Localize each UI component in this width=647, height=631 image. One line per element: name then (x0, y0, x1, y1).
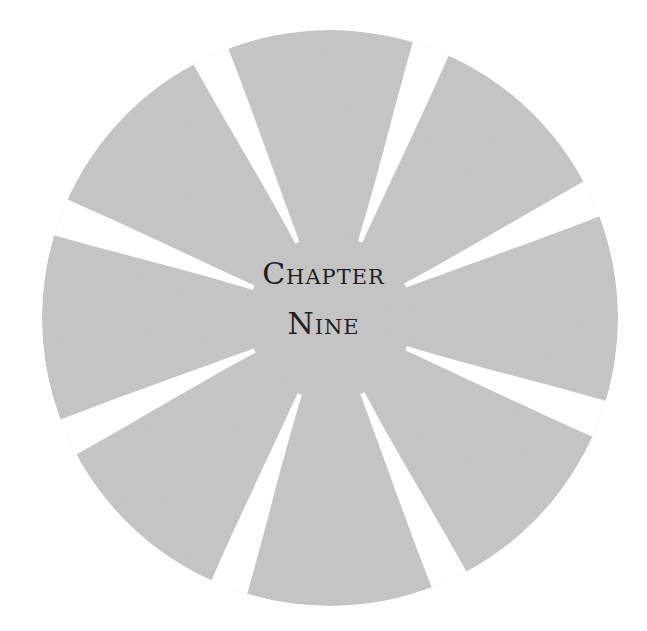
chapter-label: Chapter (0, 256, 647, 291)
chapter-number: Nine (0, 306, 647, 341)
chapter-page: Chapter Nine (0, 0, 647, 631)
